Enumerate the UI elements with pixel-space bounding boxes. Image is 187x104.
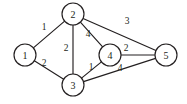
- edge-weight-2-3: 2: [64, 43, 69, 53]
- graph-node-2: 2: [62, 3, 84, 25]
- edge-weight-1-3: 2: [42, 58, 47, 68]
- graph-node-3: 3: [62, 74, 84, 96]
- edge-weight-2-5: 3: [125, 16, 130, 26]
- graph-node-5: 5: [155, 44, 177, 66]
- edge-weight-1-2: 1: [42, 22, 47, 32]
- graph-node-1: 1: [14, 44, 36, 66]
- node-label-5: 5: [164, 50, 169, 61]
- edge-weight-2-4: 4: [86, 29, 91, 39]
- graph-node-4: 4: [99, 44, 121, 66]
- graph-edge-2-5: [83, 18, 156, 50]
- graph-edge-1-3: [34, 61, 63, 79]
- edges-layer: [33, 18, 156, 81]
- edge-weight-4-5: 2: [124, 43, 129, 53]
- edge-weight-3-5: 4: [118, 63, 123, 73]
- edge-weight-3-4: 1: [89, 62, 94, 72]
- graph-figure: 12243142 12345: [0, 0, 187, 104]
- node-label-1: 1: [23, 50, 28, 61]
- graph-edge-1-2: [33, 21, 64, 48]
- graph-canvas: 12243142 12345: [0, 0, 187, 104]
- node-label-3: 3: [71, 80, 76, 91]
- node-label-2: 2: [71, 9, 76, 20]
- node-label-4: 4: [108, 50, 113, 61]
